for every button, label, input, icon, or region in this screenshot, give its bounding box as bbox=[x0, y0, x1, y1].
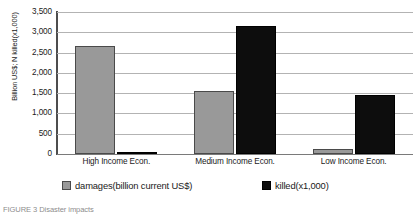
y-tick-label: 2,000 bbox=[6, 68, 52, 77]
legend-swatch-killed bbox=[262, 181, 271, 190]
gridline bbox=[57, 12, 413, 13]
x-category-label: Low Income Econ. bbox=[294, 157, 413, 166]
bar-killed bbox=[355, 95, 395, 154]
chart-figure: Billion US$; N killed(x1,000) 05001,0001… bbox=[0, 0, 413, 214]
y-tick-label: 3,500 bbox=[6, 7, 52, 16]
y-tick-label: 1,000 bbox=[6, 108, 52, 117]
x-category-label: High Income Econ. bbox=[57, 157, 176, 166]
gridline bbox=[57, 32, 413, 33]
y-tick-label: 500 bbox=[6, 129, 52, 138]
y-tick-label: 3,000 bbox=[6, 27, 52, 36]
legend-entry[interactable]: damages(billion current US$) bbox=[62, 180, 192, 191]
y-tick-label: 0 bbox=[6, 149, 52, 158]
figure-caption: FIGURE 3 Disaster impacts bbox=[3, 205, 303, 214]
legend-label: damages(billion current US$) bbox=[75, 180, 192, 191]
bar-killed bbox=[117, 152, 157, 154]
x-category-label: Medium Income Econ. bbox=[176, 157, 295, 166]
bar-damages bbox=[75, 46, 115, 154]
legend-label: killed(x1,000) bbox=[275, 180, 329, 191]
bar-damages bbox=[313, 149, 353, 154]
legend-entry[interactable]: killed(x1,000) bbox=[262, 180, 329, 191]
chart-legend: damages(billion current US$)killed(x1,00… bbox=[0, 180, 413, 196]
bar-killed bbox=[236, 26, 276, 154]
y-tick-label: 1,500 bbox=[6, 88, 52, 97]
plot-area bbox=[57, 12, 413, 154]
legend-swatch-damages bbox=[62, 181, 71, 190]
bar-damages bbox=[194, 91, 234, 154]
x-axis-category-labels: High Income Econ.Medium Income Econ.Low … bbox=[57, 157, 413, 171]
y-tick-label: 2,500 bbox=[6, 48, 52, 57]
gridline bbox=[57, 154, 413, 155]
